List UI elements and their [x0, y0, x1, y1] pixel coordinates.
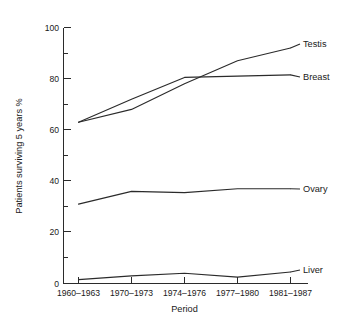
chart-canvas: 100 80 60 40 20 0 1960–1963 1970–1973 19…	[0, 0, 340, 327]
y-tick-label: 100	[45, 23, 60, 33]
x-tick-label: 1974–1976	[163, 288, 206, 298]
x-tick-label: 1977–1980	[216, 288, 259, 298]
y-axis-minor-ticks	[64, 54, 69, 258]
y-tick-label: 20	[49, 227, 59, 237]
x-axis-title: Period	[171, 304, 198, 314]
series-labels: Testis Breast Ovary Liver	[303, 39, 330, 275]
y-tick-label: 40	[49, 176, 59, 186]
series-leader-lines	[291, 44, 301, 272]
series-label-testis: Testis	[303, 39, 327, 49]
series-label-liver: Liver	[303, 265, 323, 275]
y-tick-label: 80	[49, 74, 59, 84]
y-tick-label: 60	[49, 125, 59, 135]
x-tick-label: 1960–1963	[57, 288, 100, 298]
series-label-breast: Breast	[303, 72, 330, 82]
series-label-ovary: Ovary	[303, 184, 328, 194]
series-line-testis	[79, 48, 291, 122]
x-tick-label: 1970–1973	[110, 288, 153, 298]
x-tick-label: 1981–1987	[269, 288, 312, 298]
y-tick-labels: 100 80 60 40 20 0	[45, 23, 60, 289]
y-axis-title: Patients surviving 5 years %	[14, 98, 24, 213]
series-line-ovary	[79, 189, 291, 204]
line-chart: 100 80 60 40 20 0 1960–1963 1970–1973 19…	[0, 0, 340, 327]
x-tick-labels: 1960–1963 1970–1973 1974–1976 1977–1980 …	[57, 288, 312, 298]
